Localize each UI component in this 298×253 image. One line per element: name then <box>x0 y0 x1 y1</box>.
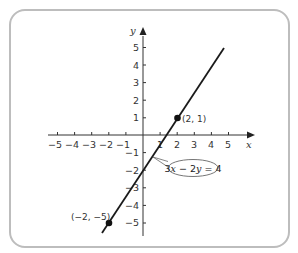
y-tick-label: −2 <box>125 165 139 176</box>
y-tick-label: −4 <box>125 200 139 211</box>
x-tick-label: 4 <box>208 139 214 150</box>
x-tick-label: −5 <box>48 139 62 150</box>
y-axis-label: y <box>129 25 136 36</box>
y-tick-label: −5 <box>125 217 139 228</box>
y-axis-arrow-icon <box>140 27 147 35</box>
equation-callout: 3x − 2y = 4 <box>153 157 221 177</box>
y-axis: 5 4 3 2 1 −1 −2 −3 −4 −5 y <box>125 25 147 236</box>
y-tick-label: 3 <box>133 77 139 88</box>
y-tick-label: 4 <box>133 60 139 71</box>
y-tick-label: 5 <box>133 42 139 53</box>
x-tick-label: −4 <box>65 139 79 150</box>
x-axis-arrow-icon <box>247 132 255 139</box>
x-axis: −5 −4 −3 −2 −1 1 2 3 4 5 x <box>48 132 255 151</box>
coordinate-plane: −5 −4 −3 −2 −1 1 2 3 4 5 x <box>0 0 298 253</box>
point-neg2-neg5-label: (−2, −5) <box>71 212 110 222</box>
x-tick-label: 2 <box>174 139 180 150</box>
x-tick-label: 3 <box>191 139 197 150</box>
y-tick-label: −1 <box>125 147 139 158</box>
equation-label: 3x − 2y = 4 <box>165 163 222 174</box>
x-axis-label: x <box>246 139 252 150</box>
point-2-1 <box>174 115 181 122</box>
x-tick-label: −3 <box>82 139 96 150</box>
x-tick-label: 5 <box>225 139 231 150</box>
y-tick-label: 2 <box>133 95 139 106</box>
y-tick-label: 1 <box>133 112 139 123</box>
x-tick-label: −2 <box>99 139 113 150</box>
point-2-1-label: (2, 1) <box>182 114 206 124</box>
